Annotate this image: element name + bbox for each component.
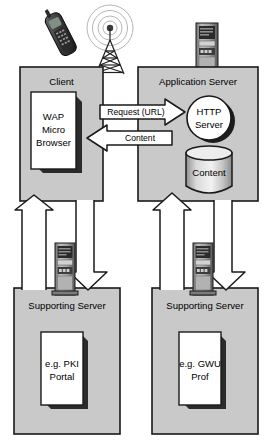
client-node[interactable]: Client WAP Micro Browser bbox=[20, 67, 103, 201]
application-server-title: Application Server bbox=[159, 76, 238, 87]
supporting-server-left-title: Supporting Server bbox=[28, 300, 106, 311]
diagram-canvas: Client WAP Micro Browser Application Ser… bbox=[0, 0, 274, 446]
gwu-prof-line-1: e.g. GWU bbox=[179, 358, 221, 369]
client-title: Client bbox=[49, 76, 74, 87]
wap-browser-line-1: WAP bbox=[43, 111, 64, 122]
supporting-server-right-node[interactable]: Supporting Server e.g. GWU Prof bbox=[152, 288, 258, 434]
client-up-arrow[interactable] bbox=[15, 195, 53, 290]
supporting-server-right-title: Supporting Server bbox=[166, 300, 244, 311]
server-tower-icon-left bbox=[52, 243, 78, 295]
wap-browser-line-3: Browser bbox=[36, 137, 71, 148]
http-server-line-1: HTTP bbox=[197, 106, 222, 117]
server-tower-icon-right bbox=[190, 243, 216, 295]
appserver-up-arrow[interactable] bbox=[153, 193, 191, 290]
pki-portal-line-1: e.g. PKI bbox=[45, 358, 79, 369]
mobile-phone-icon bbox=[40, 5, 78, 57]
content-label: Content bbox=[192, 167, 226, 178]
gwu-prof-line-2: Prof bbox=[191, 371, 209, 382]
content-arrow-label: Content bbox=[125, 133, 156, 143]
radio-tower-icon bbox=[87, 5, 133, 74]
wap-browser-line-2: Micro bbox=[42, 124, 65, 135]
http-server-line-2: Server bbox=[195, 119, 223, 130]
supporting-server-left-node[interactable]: Supporting Server e.g. PKI Portal bbox=[14, 288, 120, 434]
pki-portal-line-2: Portal bbox=[50, 371, 75, 382]
request-arrow-label: Request (URL) bbox=[107, 107, 164, 117]
wap-architecture-diagram: Client WAP Micro Browser Application Ser… bbox=[0, 0, 274, 446]
